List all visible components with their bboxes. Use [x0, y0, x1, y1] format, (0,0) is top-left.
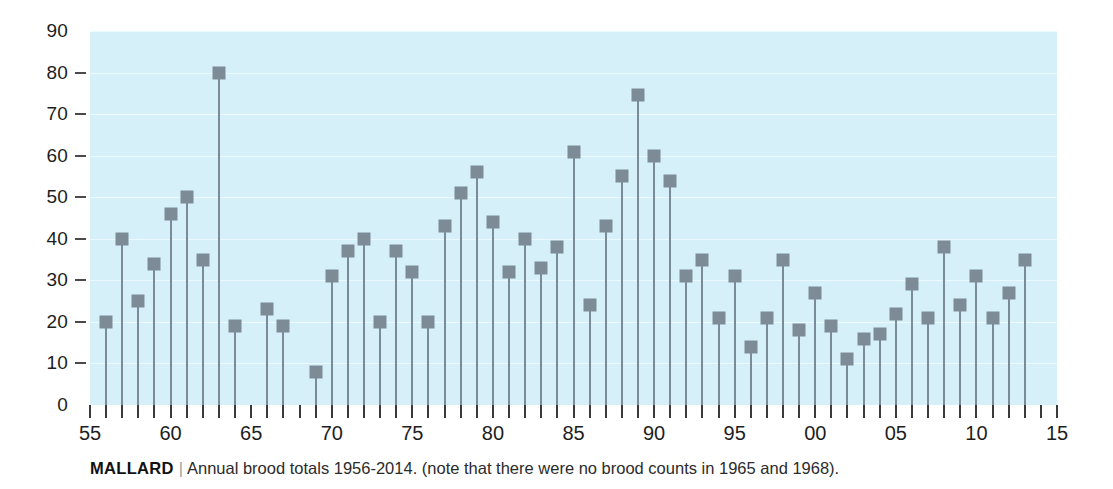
data-point-marker[interactable]	[1002, 286, 1015, 299]
data-point-marker[interactable]	[357, 232, 370, 245]
x-axis-tick	[637, 405, 639, 418]
data-point-marker[interactable]	[648, 149, 661, 162]
data-point-marker[interactable]	[696, 253, 709, 266]
x-axis-tick	[395, 405, 397, 418]
data-point-marker[interactable]	[196, 253, 209, 266]
x-axis-tick	[798, 405, 800, 418]
data-point-marker[interactable]	[277, 320, 290, 333]
y-axis-tick-label: 90	[46, 20, 68, 42]
y-axis-tick-label: 50	[46, 186, 68, 208]
x-axis-tick	[556, 405, 558, 418]
y-axis-tick-label: 40	[46, 228, 68, 250]
data-point-marker[interactable]	[664, 174, 677, 187]
data-point-marker[interactable]	[519, 232, 532, 245]
data-point-stem	[202, 260, 204, 405]
y-axis-tick-dash	[75, 279, 86, 281]
data-point-stem	[460, 193, 462, 405]
data-point-marker[interactable]	[567, 145, 580, 158]
data-point-stem	[395, 251, 397, 405]
x-axis-tick	[331, 405, 333, 418]
data-point-stem	[492, 222, 494, 405]
x-axis-tick	[137, 405, 139, 418]
data-point-marker[interactable]	[116, 232, 129, 245]
data-point-marker[interactable]	[551, 241, 564, 254]
x-axis-tick	[1008, 405, 1010, 418]
data-point-marker[interactable]	[406, 266, 419, 279]
data-point-stem	[637, 95, 639, 405]
data-point-marker[interactable]	[809, 286, 822, 299]
data-point-marker[interactable]	[148, 257, 161, 270]
data-point-marker[interactable]	[100, 315, 113, 328]
data-point-stem	[943, 247, 945, 405]
data-point-stem	[879, 334, 881, 405]
data-point-stem	[379, 322, 381, 405]
gridline	[90, 73, 1057, 74]
y-axis-tick-dash	[75, 238, 86, 240]
data-point-marker[interactable]	[261, 303, 274, 316]
data-point-marker[interactable]	[486, 216, 499, 229]
figure-caption: MALLARD|Annual brood totals 1956-2014. (…	[90, 457, 1090, 479]
data-point-marker[interactable]	[132, 295, 145, 308]
data-point-marker[interactable]	[229, 320, 242, 333]
data-point-marker[interactable]	[793, 324, 806, 337]
data-point-marker[interactable]	[905, 278, 918, 291]
plot-area	[90, 31, 1057, 405]
data-point-marker[interactable]	[777, 253, 790, 266]
caption-separator: |	[174, 459, 187, 477]
x-axis-tick-label: 15	[1046, 421, 1068, 445]
brood-totals-figure: 0102030405060708090 55606570758085909500…	[0, 0, 1113, 489]
x-axis-tick	[170, 405, 172, 418]
x-axis-tick	[750, 405, 752, 418]
data-point-marker[interactable]	[341, 245, 354, 258]
data-point-marker[interactable]	[1018, 253, 1031, 266]
data-point-marker[interactable]	[309, 365, 322, 378]
data-point-marker[interactable]	[760, 311, 773, 324]
data-point-marker[interactable]	[631, 89, 644, 102]
data-point-stem	[476, 172, 478, 405]
data-point-marker[interactable]	[599, 220, 612, 233]
data-point-marker[interactable]	[615, 170, 628, 183]
data-point-marker[interactable]	[390, 245, 403, 258]
data-point-marker[interactable]	[938, 241, 951, 254]
data-point-marker[interactable]	[470, 166, 483, 179]
data-point-marker[interactable]	[728, 270, 741, 283]
data-point-marker[interactable]	[680, 270, 693, 283]
data-point-marker[interactable]	[454, 187, 467, 200]
data-point-marker[interactable]	[212, 66, 225, 79]
data-point-marker[interactable]	[325, 270, 338, 283]
data-point-marker[interactable]	[180, 191, 193, 204]
x-axis-tick	[492, 405, 494, 418]
data-point-marker[interactable]	[841, 353, 854, 366]
data-point-marker[interactable]	[922, 311, 935, 324]
x-axis-tick-label: 85	[562, 421, 584, 445]
data-point-marker[interactable]	[374, 315, 387, 328]
data-point-stem	[734, 276, 736, 405]
x-axis-tick-label: 00	[804, 421, 826, 445]
x-axis-tick	[895, 405, 897, 418]
data-point-marker[interactable]	[503, 266, 516, 279]
data-point-marker[interactable]	[712, 311, 725, 324]
data-point-marker[interactable]	[970, 270, 983, 283]
data-point-marker[interactable]	[164, 207, 177, 220]
x-axis-tick	[476, 405, 478, 418]
data-point-marker[interactable]	[825, 320, 838, 333]
data-point-marker[interactable]	[583, 299, 596, 312]
data-point-stem	[540, 268, 542, 405]
data-point-marker[interactable]	[954, 299, 967, 312]
x-axis-tick	[959, 405, 961, 418]
data-point-stem	[669, 181, 671, 405]
data-point-marker[interactable]	[986, 311, 999, 324]
data-point-marker[interactable]	[744, 340, 757, 353]
x-axis-tick	[814, 405, 816, 418]
data-point-marker[interactable]	[873, 328, 886, 341]
x-axis-tick	[830, 405, 832, 418]
x-axis-tick	[975, 405, 977, 418]
data-point-marker[interactable]	[857, 332, 870, 345]
x-axis-tick	[363, 405, 365, 418]
data-point-marker[interactable]	[438, 220, 451, 233]
data-point-stem	[975, 276, 977, 405]
x-axis-tick	[863, 405, 865, 418]
data-point-marker[interactable]	[535, 261, 548, 274]
data-point-marker[interactable]	[422, 315, 435, 328]
data-point-marker[interactable]	[889, 307, 902, 320]
